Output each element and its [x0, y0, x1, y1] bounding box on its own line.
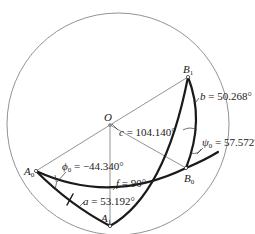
psi0-leader [197, 148, 203, 154]
b-leader [196, 98, 199, 102]
label-psi0-value: ψ0 = 57.572° [202, 136, 255, 150]
label-c-value: c = 104.140° [119, 126, 176, 138]
label-phi0-value: ϕ0 = −44.340° [62, 160, 124, 174]
label-b0: B0 [184, 172, 195, 186]
line-o-b1 [110, 77, 188, 125]
spherical-linkage-diagram: O B1 B0 A0 A1 b = 50.268° c = 104.140° ψ… [0, 0, 255, 234]
point-a0 [34, 169, 37, 172]
label-b1: B1 [183, 63, 194, 77]
point-o [109, 124, 111, 126]
point-b0 [184, 166, 187, 169]
label-a0: A0 [23, 165, 35, 179]
label-a-value: a = 53.192° [83, 195, 135, 207]
label-b-value: b = 50.268° [200, 90, 252, 102]
label-f-value: f = 90° [116, 177, 146, 189]
arc-b [186, 77, 196, 168]
label-o: O [104, 111, 112, 123]
